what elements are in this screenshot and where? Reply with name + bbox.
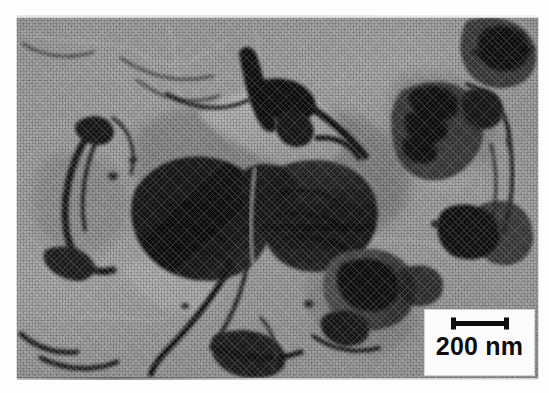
scale-bar-callout: 200 nm	[424, 309, 535, 376]
scale-bar-label: 200 nm	[436, 332, 523, 360]
scale-bar-icon	[451, 316, 509, 331]
figure-root: 200 nm	[0, 0, 549, 393]
tem-micrograph-image: 200 nm	[17, 18, 538, 378]
